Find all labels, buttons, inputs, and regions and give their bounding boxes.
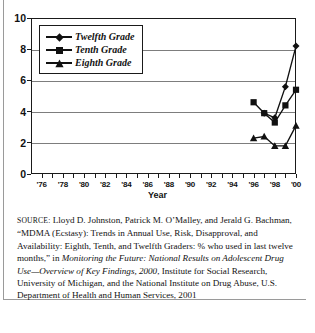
data-point-marker xyxy=(282,102,288,108)
legend-label-eighth-grade: Eighth Grade xyxy=(72,57,131,68)
data-point-marker xyxy=(292,122,299,129)
legend-label-tenth-grade: Tenth Grade xyxy=(72,44,127,55)
diamond-icon xyxy=(46,31,72,43)
legend-item-twelfth-grade: Twelfth Grade xyxy=(46,30,134,43)
line-chart: 0246810 '76'78'80'82'84'86'88'90'92'94'9… xyxy=(0,0,315,200)
chart-legend: Twelfth Grade Tenth Grade Eighth Grade xyxy=(39,25,143,74)
data-point-marker xyxy=(293,43,300,50)
source-label: SOURCE: xyxy=(17,216,50,225)
data-point-marker xyxy=(272,119,278,125)
legend-label-twelfth-grade: Twelfth Grade xyxy=(72,31,134,42)
data-point-marker xyxy=(251,99,257,105)
legend-item-eighth-grade: Eighth Grade xyxy=(46,56,134,69)
legend-item-tenth-grade: Tenth Grade xyxy=(46,43,134,56)
triangle-icon xyxy=(46,57,72,69)
data-point-marker xyxy=(293,87,299,93)
data-point-marker xyxy=(261,133,268,140)
series-line xyxy=(264,46,296,118)
source-caption: SOURCE: Lloyd D. Johnston, Patrick M. O’… xyxy=(17,214,296,302)
data-point-marker xyxy=(261,110,267,116)
figure-page: 0246810 '76'78'80'82'84'86'88'90'92'94'9… xyxy=(0,0,315,333)
data-point-marker xyxy=(282,83,289,90)
square-icon xyxy=(46,44,72,56)
x-axis-title: Year xyxy=(0,190,315,200)
